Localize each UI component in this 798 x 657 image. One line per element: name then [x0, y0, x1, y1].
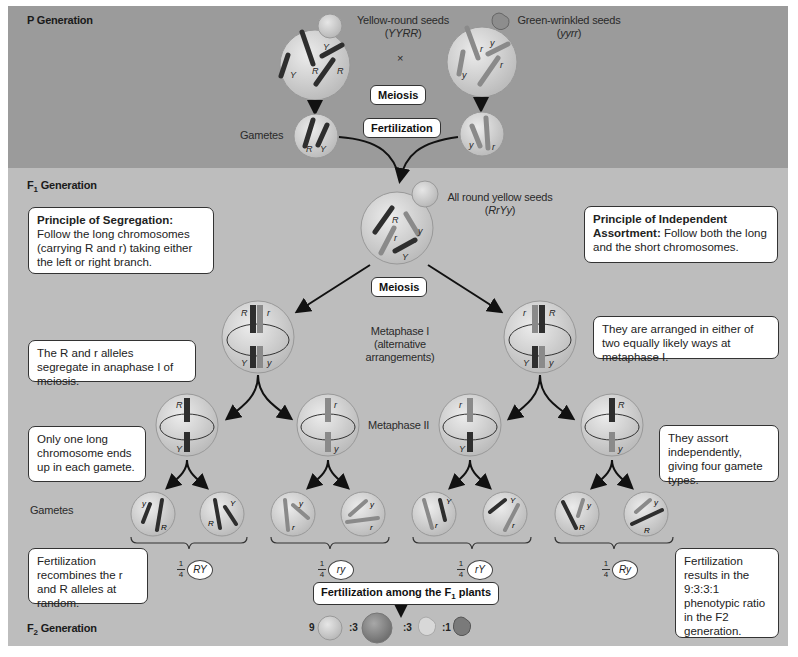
svg-text:y: y	[461, 70, 467, 80]
svg-text:R: R	[549, 308, 556, 318]
svg-text:Y: Y	[290, 70, 297, 80]
gamete-type-ry: ry	[328, 560, 354, 580]
ratio-note: Fertilization results in the 9:3:3:1 phe…	[675, 548, 779, 638]
svg-text:R: R	[208, 519, 214, 528]
metaphase2-cell-2: r y	[297, 394, 359, 456]
fertilization-f1-plants-label: Fertilization among the F1 plants	[313, 582, 499, 605]
svg-text:y: y	[468, 140, 474, 150]
ratio-1: :1	[442, 622, 451, 633]
meiosis-label-f1: Meiosis	[371, 277, 427, 297]
svg-text:y: y	[617, 444, 623, 454]
gamete-rY-1: rY	[412, 492, 456, 536]
svg-text:Y: Y	[176, 444, 183, 454]
fraction-ry: 14	[318, 560, 326, 579]
metaphase1-right-cell: r R Y y	[504, 301, 576, 373]
arrangement-note: They are arranged in either of two equal…	[593, 316, 779, 359]
parent2-label: Green-wrinkled seeds(yyrr)	[507, 14, 631, 40]
svg-text:R: R	[337, 66, 344, 76]
fraction-rY: 14	[457, 560, 465, 579]
svg-text:R: R	[241, 308, 248, 318]
metaphase1-left-cell: R r Y y	[222, 301, 294, 373]
anaphase-note: The R and r alleles segregate in anaphas…	[28, 340, 196, 382]
gamete-ry-1: ry	[271, 492, 315, 536]
svg-text:Y: Y	[230, 499, 236, 508]
svg-text:Y: Y	[241, 358, 248, 368]
recombine-note: Fertilization recombines the r and R all…	[28, 548, 148, 604]
gamete-RY-2: RY	[200, 492, 244, 536]
independent-assortment-note: Principle of Independent Assortment: Fol…	[584, 206, 778, 263]
parent1-cell: R R Y Y	[280, 30, 350, 100]
seed-green-round-icon	[362, 613, 392, 643]
svg-text:R: R	[176, 400, 183, 410]
fertilization-label-p: Fertilization	[363, 118, 441, 138]
metaphase2-cell-3: r Y	[439, 394, 501, 456]
svg-text:r: r	[370, 523, 373, 532]
svg-text:Y: Y	[402, 252, 409, 262]
svg-text:R: R	[644, 526, 650, 535]
svg-text:R: R	[579, 523, 585, 532]
meiosis-label-p: Meiosis	[370, 85, 426, 105]
fraction-RY: 14	[177, 560, 185, 579]
gamete-type-rY: rY	[467, 560, 493, 580]
svg-text:Y: Y	[446, 497, 452, 506]
p-gametes-label: Gametes	[240, 129, 283, 142]
metaphase2-cell-1: R Y	[156, 394, 218, 456]
gamete-ry-2: yr	[341, 492, 385, 536]
seed-yellow-wrinkled-icon	[418, 617, 435, 636]
gamete-Ry-2: yR	[624, 492, 668, 536]
fraction-Ry: 14	[602, 560, 610, 579]
svg-text:R: R	[392, 215, 399, 225]
svg-text:y: y	[417, 226, 423, 236]
svg-text:y: y	[548, 358, 554, 368]
svg-text:Y: Y	[523, 358, 530, 368]
svg-text:Y: Y	[459, 444, 466, 454]
gamete-type-Ry: Ry	[612, 560, 638, 580]
parent1-gamete	[294, 114, 338, 158]
segregation-note: Principle of Segregation: Follow the lon…	[28, 207, 214, 274]
svg-text:y: y	[333, 444, 339, 454]
f1-seed-icon	[412, 181, 438, 207]
svg-text:y: y	[266, 358, 272, 368]
svg-text:Y: Y	[323, 42, 330, 52]
svg-text:r: r	[512, 521, 515, 530]
metaphase2-label: Metaphase II	[368, 419, 429, 432]
svg-text:R: R	[161, 523, 167, 532]
yellow-round-seed-icon	[318, 14, 342, 38]
svg-text:R: R	[618, 400, 625, 410]
parent1-label: Yellow-round seeds(YYRR)	[344, 14, 462, 40]
svg-text:R: R	[312, 66, 319, 76]
gamete-rY-2: Yr	[483, 492, 527, 536]
f2-generation-label: F2 Generation	[27, 622, 97, 637]
f1-seed-label: All round yellow seeds(RrYy)	[440, 191, 560, 217]
one-long-chromosome-note: Only one long chromosome ends up in each…	[28, 426, 146, 482]
ratio-3b: :3	[403, 622, 412, 633]
f1-generation-label: F1 Generation	[27, 179, 97, 194]
metaphase1-label: Metaphase I(alternativearrangements)	[360, 325, 440, 364]
svg-text:Y: Y	[510, 496, 516, 505]
ratio-9: 9	[309, 622, 315, 633]
svg-text:y: y	[489, 38, 495, 48]
gamete-RY-1: yR	[131, 492, 175, 536]
p-generation-label: P Generation	[27, 14, 93, 26]
ratio-3a: :3	[349, 622, 358, 633]
seed-yellow-round-icon	[318, 616, 342, 640]
svg-text:r: r	[435, 521, 438, 530]
gamete-Ry-1: Ry	[555, 492, 599, 536]
cross-symbol: ×	[393, 52, 407, 65]
svg-text:Y: Y	[320, 144, 327, 154]
seed-green-wrinkled-icon	[453, 617, 470, 636]
f1-gametes-label: Gametes	[30, 504, 73, 517]
svg-text:r: r	[292, 523, 295, 532]
parent2-gamete	[460, 112, 504, 156]
metaphase2-cell-4: R y	[581, 394, 643, 456]
svg-text:R: R	[306, 144, 313, 154]
gamete-type-RY: RY	[187, 560, 213, 580]
assort-note: They assort independently, giving four g…	[659, 425, 779, 482]
